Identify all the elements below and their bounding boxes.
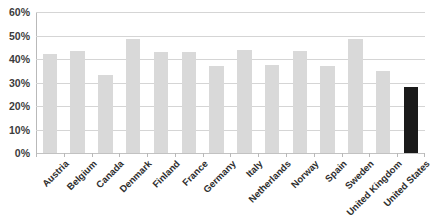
bars-layer [36, 12, 425, 153]
x-axis-label-italy: Italy [244, 158, 265, 179]
chart-title-clipped [196, 0, 426, 5]
bar-slot [147, 12, 175, 153]
tick-mark [203, 153, 204, 157]
bar-slot [397, 12, 425, 153]
tick-mark [397, 153, 398, 157]
bar-slot [369, 12, 397, 153]
bar-denmark[interactable] [126, 39, 140, 153]
bar-spain[interactable] [320, 66, 334, 153]
tick-mark [119, 153, 120, 157]
tick-mark [424, 153, 425, 157]
tick-mark [342, 153, 343, 157]
bar-slot [286, 12, 314, 153]
tick-mark [369, 153, 370, 157]
tick-mark [258, 153, 259, 157]
bar-slot [119, 12, 147, 153]
x-axis-label-norway: Norway [289, 158, 321, 190]
tick-mark [230, 153, 231, 157]
x-axis-labels: AustriaBelgiumCanadaDenmarkFinlandFrance… [36, 158, 425, 222]
bar-sweden[interactable] [348, 39, 362, 153]
tick-mark [92, 153, 93, 157]
bar-slot [342, 12, 370, 153]
y-axis-tick-label: 10% [9, 124, 30, 136]
tick-mark [286, 153, 287, 157]
bar-slot [230, 12, 258, 153]
tick-mark [36, 153, 37, 157]
y-axis-tick-label: 60% [9, 6, 30, 18]
bar-canada[interactable] [98, 75, 112, 153]
bar-slot [36, 12, 64, 153]
bar-italy[interactable] [237, 50, 251, 153]
y-axis: 60%50%40%30%20%10%0% [0, 6, 33, 158]
bar-slot [175, 12, 203, 153]
bar-norway[interactable] [293, 51, 307, 153]
bar-slot [314, 12, 342, 153]
bar-slot [64, 12, 92, 153]
y-axis-tick-label: 40% [9, 53, 30, 65]
bar-belgium[interactable] [70, 51, 84, 153]
y-axis-tick-label: 20% [9, 100, 30, 112]
bar-slot [203, 12, 231, 153]
x-axis-label-finland: Finland [150, 158, 182, 190]
tick-mark [314, 153, 315, 157]
bar-france[interactable] [182, 52, 196, 153]
bar-austria[interactable] [43, 54, 57, 153]
y-axis-tick-label: 30% [9, 77, 30, 89]
bar-germany[interactable] [209, 66, 223, 153]
bar-slot [92, 12, 120, 153]
plot-area [36, 12, 425, 153]
bar-finland[interactable] [154, 52, 168, 153]
tick-mark [175, 153, 176, 157]
y-axis-tick-label: 50% [9, 30, 30, 42]
bar-netherlands[interactable] [265, 65, 279, 153]
bar-united-states[interactable] [404, 87, 418, 153]
bar-united-kingdom[interactable] [376, 71, 390, 153]
tick-mark [147, 153, 148, 157]
bar-slot [258, 12, 286, 153]
tick-mark [64, 153, 65, 157]
y-axis-tick-label: 0% [15, 147, 30, 159]
